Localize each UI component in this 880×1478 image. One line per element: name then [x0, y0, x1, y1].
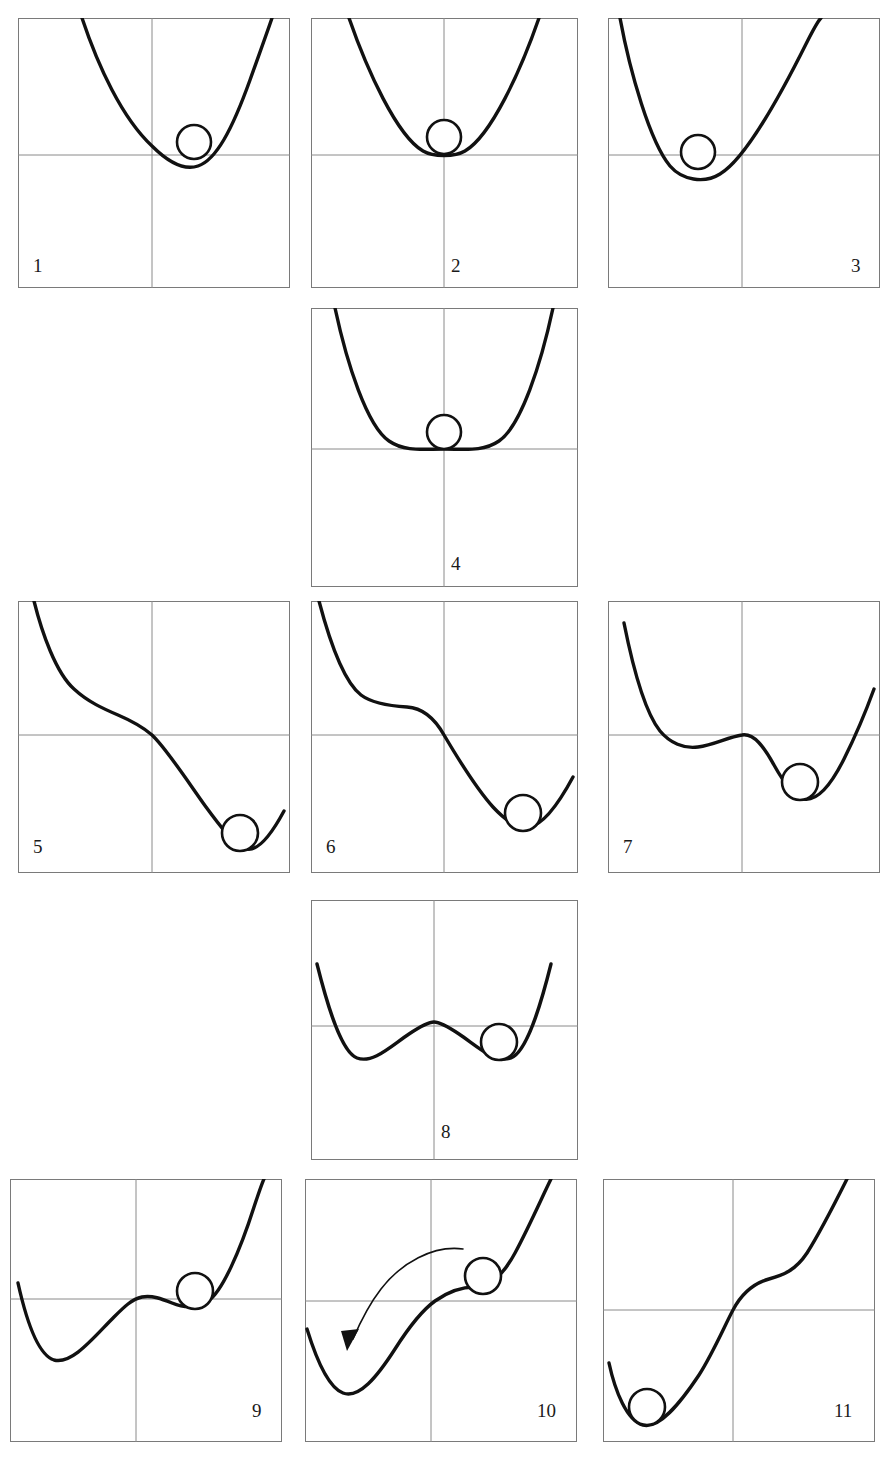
ball — [681, 135, 715, 169]
potential-panel-4: 4 — [311, 308, 578, 587]
ball — [782, 764, 818, 800]
ball — [427, 415, 461, 449]
panel-label-2: 2 — [451, 256, 461, 275]
ball — [465, 1258, 501, 1294]
panel-label-6: 6 — [326, 837, 336, 856]
potential-panel-8: 8 — [311, 900, 578, 1160]
panel-frame — [19, 19, 290, 288]
panel-frame — [306, 1180, 577, 1442]
potential-panel-2: 2 — [311, 18, 578, 288]
potential-panel-1: 1 — [18, 18, 290, 288]
panel-label-4: 4 — [451, 554, 461, 573]
ball — [481, 1024, 517, 1060]
ball — [222, 815, 258, 851]
ball — [177, 1273, 213, 1309]
potential-panel-11: 11 — [603, 1179, 875, 1442]
panel-frame — [11, 1180, 282, 1442]
potential-panel-5: 5 — [18, 601, 290, 873]
potential-panel-9: 9 — [10, 1179, 282, 1442]
panel-frame — [609, 602, 880, 873]
ball — [177, 125, 211, 159]
panel-label-9: 9 — [252, 1401, 262, 1420]
panel-label-8: 8 — [441, 1122, 451, 1141]
panel-label-11: 11 — [834, 1401, 852, 1420]
panel-frame — [609, 19, 880, 288]
potential-panel-6: 6 — [311, 601, 578, 873]
panel-label-7: 7 — [623, 837, 633, 856]
ball — [427, 120, 461, 154]
panel-label-1: 1 — [33, 256, 43, 275]
panel-label-3: 3 — [851, 256, 861, 275]
panel-label-10: 10 — [537, 1401, 556, 1420]
panel-label-5: 5 — [33, 837, 43, 856]
ball — [629, 1389, 665, 1425]
potential-panel-7: 7 — [608, 601, 880, 873]
potential-panel-10: 10 — [305, 1179, 577, 1442]
ball — [505, 795, 541, 831]
potential-panel-3: 3 — [608, 18, 880, 288]
